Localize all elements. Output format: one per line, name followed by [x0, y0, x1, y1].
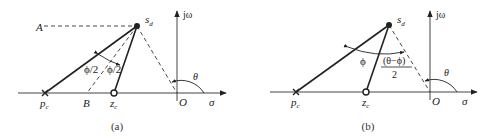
sd-label: sd	[145, 13, 153, 28]
sd-label: sd	[397, 13, 405, 28]
theta-label: θ	[193, 71, 198, 82]
caption-a: (a)	[111, 120, 124, 133]
phi-label: ϕ	[360, 55, 366, 67]
sigma-label: σ	[209, 96, 215, 108]
pole-zero-compensation-figure: sd jω σ O θ pc zc A B ϕ/2 ϕ/2 (a) sd	[0, 0, 492, 139]
panel-a: sd jω σ O θ pc zc A B ϕ/2 ϕ/2 (a)	[18, 9, 226, 133]
zc-label: zc	[109, 97, 118, 111]
jw-label: jω	[182, 9, 193, 20]
caption-b: (b)	[362, 120, 375, 133]
jw-label: jω	[435, 9, 446, 20]
line-sd-to-zero	[114, 26, 137, 93]
origin-label: O	[179, 96, 187, 108]
zero-circle-icon	[111, 90, 117, 96]
zero-circle-icon	[363, 89, 369, 95]
zc-label: zc	[361, 96, 370, 110]
sd-point	[386, 22, 392, 28]
origin-label: O	[432, 95, 440, 107]
line-sd-to-pole	[296, 25, 389, 92]
sd-point	[134, 23, 140, 29]
half-phi-left-label: ϕ/2	[84, 63, 98, 75]
half-phi-right-label: ϕ/2	[107, 63, 121, 75]
fraction-numerator: (θ−ϕ)	[383, 55, 405, 67]
dashed-bisector-sd-to-b	[87, 26, 137, 93]
dashed-line-sd-to-origin	[137, 26, 177, 93]
a-point-label: A	[35, 21, 43, 33]
sigma-label: σ	[462, 95, 468, 107]
panel-b: sd jω σ O θ pc zc ϕ (θ−ϕ) 2 (b)	[270, 9, 477, 133]
b-point-label: B	[83, 97, 90, 109]
fraction-denominator: 2	[392, 69, 397, 80]
pc-label: pc	[290, 96, 301, 110]
theta-label: θ	[444, 67, 449, 78]
line-sd-to-pole	[45, 26, 137, 93]
pc-label: pc	[39, 97, 50, 111]
